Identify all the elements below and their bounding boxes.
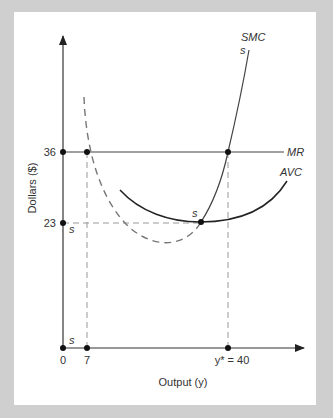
- origin-s-label: s: [69, 334, 75, 346]
- avc-curve: [120, 181, 287, 222]
- point-7-36: [84, 149, 90, 155]
- point-x7: [84, 345, 90, 351]
- smc-label: SMC: [241, 31, 266, 43]
- x-axis-label: Output (y): [159, 376, 208, 388]
- smc-s-label: s: [240, 44, 246, 56]
- mr-label: MR: [287, 146, 304, 158]
- avc-min-s-label: s: [192, 207, 198, 219]
- x-tick-7: 7: [84, 354, 90, 366]
- y-axis-label: Dollars ($): [26, 163, 38, 214]
- y-tick-23: 23: [44, 217, 56, 229]
- point-x40: [225, 345, 231, 351]
- point-0-36: [60, 149, 66, 155]
- x-tick-ystar: y* = 40: [215, 354, 250, 366]
- point-avc-min: [198, 219, 204, 225]
- avc-label: AVC: [279, 166, 302, 178]
- y23-s-label: s: [69, 223, 75, 235]
- cost-curves-chart: 36 23 0 7 y* = 40 Dollars ($) Output (y)…: [0, 0, 333, 418]
- y-tick-36: 36: [44, 146, 56, 158]
- point-40-36: [225, 149, 231, 155]
- point-origin: [60, 345, 66, 351]
- smc-curve-solid: [201, 50, 249, 222]
- point-0-23: [60, 220, 66, 226]
- x-tick-0: 0: [60, 354, 66, 366]
